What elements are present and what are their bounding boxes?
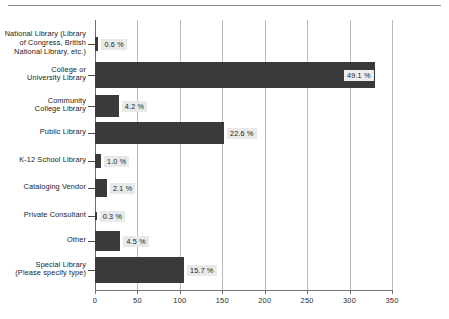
category-label-line: Private Consultant xyxy=(0,211,86,220)
category-tick xyxy=(88,270,95,271)
bar-value-label: 0.3 % xyxy=(100,211,125,222)
bar xyxy=(95,231,120,251)
x-axis-tick-label: 300 xyxy=(330,296,370,305)
gridline xyxy=(350,20,351,290)
bar xyxy=(95,95,119,117)
top-divider-rule xyxy=(8,5,441,6)
x-axis-tick-label: 150 xyxy=(202,296,242,305)
category-label-line: Other xyxy=(0,236,86,245)
category-tick xyxy=(88,188,95,189)
bar-value-label: 2.1 % xyxy=(110,183,135,194)
category-label-line: College Library xyxy=(0,105,86,114)
x-axis-tick xyxy=(180,290,181,294)
category-tick xyxy=(88,44,95,45)
category-label: CommunityCollege Library xyxy=(0,97,86,115)
bar xyxy=(95,154,101,168)
bar xyxy=(95,257,184,283)
bar-value-label: 1.0 % xyxy=(104,156,129,167)
category-label: Public Library xyxy=(0,128,86,137)
bar xyxy=(95,62,375,88)
bar-value-label: 4.5 % xyxy=(123,236,148,247)
x-axis-line xyxy=(95,290,392,291)
plot-area xyxy=(95,20,392,290)
category-tick xyxy=(88,216,95,217)
bar-value-label: 0.6 % xyxy=(101,39,126,50)
bar xyxy=(95,37,98,51)
gridline xyxy=(137,20,138,290)
category-label: Cataloging Vendor xyxy=(0,183,86,192)
gridline xyxy=(307,20,308,290)
category-label-line: National Library, etc.) xyxy=(0,48,86,57)
category-label-line: (Please specify type) xyxy=(0,269,86,278)
category-label-line: Public Library xyxy=(0,128,86,137)
x-axis-tick xyxy=(350,290,351,294)
bar-value-label: 22.6 % xyxy=(227,128,257,139)
category-label-line: Cataloging Vendor xyxy=(0,183,86,192)
bar-value-label: 15.7 % xyxy=(187,265,217,276)
category-tick xyxy=(88,75,95,76)
bar xyxy=(95,212,97,220)
gridline xyxy=(180,20,181,290)
category-tick xyxy=(88,241,95,242)
category-label-line: University Library xyxy=(0,74,86,83)
category-label: K-12 School Library xyxy=(0,156,86,165)
gridline xyxy=(222,20,223,290)
gridline xyxy=(392,20,393,290)
bar xyxy=(95,122,224,144)
category-label: Other xyxy=(0,236,86,245)
bar xyxy=(95,179,107,197)
category-label: Special Library(Please specify type) xyxy=(0,261,86,279)
bar-value-label: 4.2 % xyxy=(122,101,147,112)
x-axis-tick xyxy=(307,290,308,294)
category-tick xyxy=(88,161,95,162)
category-label: National Library (Libraryof Congress, Br… xyxy=(0,30,86,56)
bar-value-label: 49.1 % xyxy=(344,70,374,81)
category-tick xyxy=(88,133,95,134)
x-axis-tick-label: 0 xyxy=(75,296,115,305)
x-axis-tick xyxy=(222,290,223,294)
category-label-line: K-12 School Library xyxy=(0,156,86,165)
x-axis-tick xyxy=(137,290,138,294)
category-tick xyxy=(88,106,95,107)
gridline xyxy=(265,20,266,290)
chart-figure: 050100150200250300350National Library (L… xyxy=(0,0,449,319)
x-axis-tick-label: 100 xyxy=(160,296,200,305)
x-axis-tick-label: 350 xyxy=(372,296,412,305)
category-label: College orUniversity Library xyxy=(0,66,86,84)
x-axis-tick-label: 50 xyxy=(117,296,157,305)
x-axis-tick-label: 250 xyxy=(287,296,327,305)
x-axis-tick xyxy=(95,290,96,294)
x-axis-tick-label: 200 xyxy=(245,296,285,305)
x-axis-tick xyxy=(265,290,266,294)
category-label: Private Consultant xyxy=(0,211,86,220)
x-axis-tick xyxy=(392,290,393,294)
